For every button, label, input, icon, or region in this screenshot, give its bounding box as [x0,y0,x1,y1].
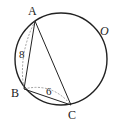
point-label-a: A [28,4,37,18]
segment-ab [24,21,35,89]
circle-label-o: O [100,24,109,38]
length-label-ab: 8 [19,48,25,60]
length-label-bc: 6 [46,85,52,97]
point-label-b: B [11,86,19,100]
point-label-c: C [68,108,76,121]
segment-ac [35,21,71,105]
circle-diagram: A B C O 8 6 [0,0,115,121]
